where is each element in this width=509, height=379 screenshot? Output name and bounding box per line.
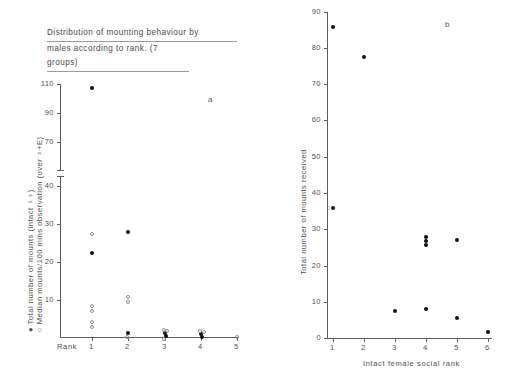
data-point [126, 230, 130, 234]
y-tick-label-b-30: 30 [300, 224, 321, 233]
data-point [362, 55, 366, 59]
data-point [455, 238, 459, 242]
y-tick-a-10 [57, 300, 61, 301]
data-point [393, 309, 397, 313]
x-tick-label-b-2: 2 [361, 343, 366, 352]
data-point [200, 335, 204, 339]
y-tick-label-a-70: 70 [32, 137, 54, 146]
data-point [126, 295, 131, 300]
y-tick-a-30 [57, 224, 61, 225]
y-tick-label-a-10: 10 [32, 295, 54, 304]
x-axis-label-b: Intact female social rank [363, 359, 460, 368]
data-point [90, 309, 95, 314]
data-point [424, 243, 428, 247]
chart-panel-b: Total number of mounts received 90 80 70… [262, 0, 509, 379]
data-point [90, 304, 95, 309]
x-tick-label-b-3: 3 [392, 343, 397, 352]
data-point [486, 330, 490, 334]
x-tick-b-1 [333, 338, 334, 342]
y-tick-label-b-10: 10 [300, 297, 321, 306]
y-tick-label-b-90: 90 [300, 7, 321, 16]
x-axis-label-a: Rank [57, 342, 77, 351]
data-point [331, 25, 335, 29]
y-axis-line-b [327, 12, 328, 338]
y-axis-break-lower-a [57, 176, 64, 177]
x-axis-line-a [60, 337, 238, 338]
data-point [202, 330, 207, 335]
y-tick-b-50 [324, 157, 328, 158]
x-tick-label-b-5: 5 [454, 343, 459, 352]
y-tick-label-a-90: 90 [32, 108, 54, 117]
y-tick-b-40 [324, 193, 328, 194]
y-tick-label-b-60: 60 [300, 115, 321, 124]
y-tick-a-70 [57, 142, 61, 143]
y-tick-label-b-50: 50 [300, 152, 321, 161]
x-tick-label-b-4: 4 [423, 343, 428, 352]
y-tick-label-b-40: 40 [300, 188, 321, 197]
y-tick-label-a-20: 20 [32, 257, 54, 266]
x-tick-a-1 [92, 337, 93, 341]
data-point [455, 316, 459, 320]
data-point [424, 307, 428, 311]
panel-label-a: a [208, 95, 213, 104]
data-point [165, 329, 170, 334]
x-tick-b-2 [364, 338, 365, 342]
y-axis-line-a-lower [60, 176, 61, 337]
y-tick-a-20 [57, 262, 61, 263]
data-point [90, 320, 95, 325]
data-point [90, 325, 95, 330]
y-tick-b-10 [324, 302, 328, 303]
y-tick-label-b-0: 0 [300, 333, 321, 342]
data-point [90, 232, 95, 237]
x-tick-label-b-6: 6 [485, 343, 490, 352]
y-tick-label-a-30: 30 [32, 219, 54, 228]
x-tick-label-a-5: 5 [234, 342, 239, 351]
y-axis-label-b: Total number of mounts received [299, 149, 308, 275]
data-point [126, 300, 131, 305]
panel-label-b: b [445, 20, 450, 29]
y-tick-label-b-70: 70 [300, 79, 321, 88]
data-point [331, 206, 335, 210]
x-tick-b-5 [457, 338, 458, 342]
y-tick-a-40 [57, 186, 61, 187]
figure-title: Distribution of mounting behaviour by ma… [47, 26, 237, 72]
y-axis-line-a-upper [60, 84, 61, 170]
x-axis-line-b [327, 338, 492, 339]
data-point [235, 335, 240, 340]
x-tick-b-4 [426, 338, 427, 342]
data-point [90, 251, 94, 255]
x-tick-label-b-1: 1 [330, 343, 335, 352]
y-tick-b-80 [324, 48, 328, 49]
chart-panel-a: Distribution of mounting behaviour by ma… [0, 0, 262, 379]
y-tick-b-90 [324, 12, 328, 13]
data-point [90, 86, 94, 90]
y-tick-label-a-40: 40 [32, 181, 54, 190]
y-tick-b-20 [324, 266, 328, 267]
y-tick-label-a-110: 110 [32, 79, 54, 88]
y-tick-a-110 [57, 84, 61, 85]
y-tick-b-60 [324, 120, 328, 121]
x-tick-label-a-4: 4 [198, 342, 203, 351]
x-tick-label-a-1: 1 [89, 342, 94, 351]
y-tick-b-0 [324, 338, 328, 339]
y-tick-a-90 [57, 113, 61, 114]
x-tick-label-a-2: 2 [125, 342, 130, 351]
y-axis-break-upper-a [57, 170, 64, 171]
y-tick-label-b-20: 20 [300, 261, 321, 270]
figure-title-line-2: males according to rank. (7 groups) [47, 42, 189, 72]
y-tick-b-30 [324, 229, 328, 230]
x-tick-b-3 [395, 338, 396, 342]
x-tick-label-a-3: 3 [162, 342, 167, 351]
y-tick-label-b-80: 80 [300, 43, 321, 52]
figure-title-line-1: Distribution of mounting behaviour by [47, 26, 237, 42]
y-tick-b-70 [324, 84, 328, 85]
x-tick-b-6 [488, 338, 489, 342]
